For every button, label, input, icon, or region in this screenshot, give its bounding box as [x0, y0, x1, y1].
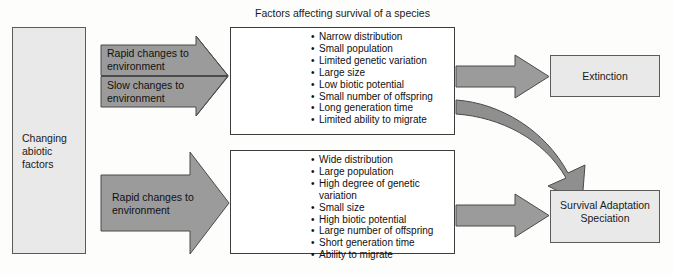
arrow-curved-top-to-survival — [456, 100, 585, 203]
arrow-label-rapid-changes-top: Rapid changes to environment — [107, 47, 203, 72]
list-item: Large population — [311, 166, 451, 178]
list-item: Long generation time — [311, 102, 451, 114]
list-item: Large size — [311, 67, 451, 79]
diagram-canvas: Factors affecting survival of a species … — [0, 0, 673, 276]
list-item: Limited genetic variation — [311, 55, 451, 67]
list-item: Short generation time — [311, 237, 451, 249]
list-item: Limited ability to migrate — [311, 114, 451, 126]
list-item: Small population — [311, 43, 451, 55]
changing-abiotic-factors-label: Changing abiotic factors — [22, 132, 86, 171]
list-item: High biotic potential — [311, 214, 451, 226]
high-resilience-trait-list: Wide distribution Large population High … — [311, 154, 451, 261]
list-item: Narrow distribution — [311, 31, 451, 43]
arrow-to-extinction — [456, 55, 549, 98]
extinction-label: Extinction — [551, 70, 659, 83]
survival-outcome-box: Survival Adaptation Speciation — [550, 190, 660, 243]
list-item: High degree of genetic variation — [311, 178, 451, 202]
survival-label: Survival Adaptation Speciation — [551, 199, 659, 225]
arrow-to-survival — [456, 194, 549, 237]
diagram-title: Factors affecting survival of a species — [230, 7, 455, 19]
arrow-label-rapid-changes-bottom: Rapid changes to environment — [112, 191, 212, 216]
arrow-label-slow-changes: Slow changes to environment — [107, 79, 203, 104]
list-item: Small number of offspring — [311, 91, 451, 103]
list-item: Ability to migrate — [311, 249, 451, 261]
list-item: Large number of offspring — [311, 225, 451, 237]
list-item: Small size — [311, 202, 451, 214]
extinction-outcome-box: Extinction — [550, 55, 660, 97]
list-item: Low biotic potential — [311, 79, 451, 91]
low-resilience-trait-list: Narrow distribution Small population Lim… — [311, 31, 451, 126]
list-item: Wide distribution — [311, 154, 451, 166]
changing-abiotic-factors-box: Changing abiotic factors — [12, 27, 86, 254]
